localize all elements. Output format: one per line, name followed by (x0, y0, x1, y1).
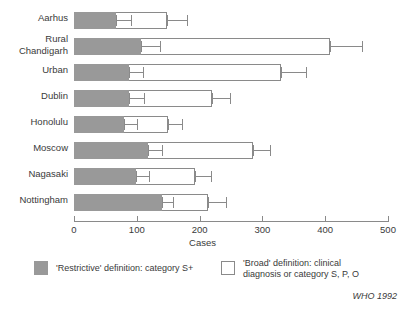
x-axis-tick-label: 400 (317, 224, 333, 235)
x-axis-tick (74, 216, 75, 222)
error-bar-restrictive (162, 202, 173, 203)
error-bar-restrictive (129, 72, 143, 73)
error-bar-cap-lower-restrictive (129, 93, 130, 104)
error-bar-cap-upper-broad (211, 171, 212, 182)
error-bar-broad (212, 98, 230, 99)
error-bar-cap-upper-broad (306, 67, 307, 78)
error-bar-restrictive (116, 20, 130, 21)
x-axis-tick (388, 216, 389, 222)
bar-segment-restrictive (74, 116, 124, 133)
error-bar-broad (208, 202, 226, 203)
legend: 'Restrictive' definition: category S+ 'B… (0, 258, 405, 292)
bar-row (0, 190, 405, 216)
x-axis-line (74, 221, 388, 222)
error-bar-restrictive (136, 176, 150, 177)
legend-label-line: diagnosis or category S, P, O (243, 269, 403, 280)
bar-row (0, 112, 405, 138)
error-bar-broad (330, 46, 361, 47)
bar-row (0, 60, 405, 86)
source-attribution: WHO 1992 (352, 291, 397, 301)
legend-swatch-broad (221, 261, 235, 275)
error-bar-cap-lower-restrictive (141, 41, 142, 52)
error-bar-cap-upper-broad (270, 145, 271, 156)
x-axis-tick-label: 500 (380, 224, 396, 235)
x-axis-title: Cases (0, 237, 405, 248)
error-bar-broad (167, 20, 187, 21)
x-axis-tick (200, 216, 201, 222)
x-axis-tick (262, 216, 263, 222)
legend-label-line: 'Restrictive' definition: category S+ (56, 263, 236, 274)
bar-row (0, 8, 405, 34)
bar-row (0, 34, 405, 60)
bar-stack (74, 194, 208, 211)
error-bar-restrictive (124, 124, 137, 125)
error-bar-cap-upper-restrictive (162, 145, 163, 156)
bar-segment-restrictive (74, 168, 136, 185)
bar-stack (74, 168, 195, 185)
error-bar-cap-upper-restrictive (149, 171, 150, 182)
bar-segment-restrictive (74, 142, 148, 159)
bar-stack (74, 116, 168, 133)
error-bar-cap-lower-broad (253, 145, 254, 156)
bar-stack (74, 64, 281, 81)
error-bar-restrictive (141, 46, 160, 47)
bar-stack (74, 38, 330, 55)
error-bar-cap-lower-broad (330, 41, 331, 52)
bar-segment-restrictive (74, 90, 129, 107)
error-bar-cap-lower-restrictive (124, 119, 125, 130)
bar-segment-restrictive (74, 38, 141, 55)
error-bar-cap-upper-restrictive (143, 67, 144, 78)
x-axis-tick (325, 216, 326, 222)
legend-swatch-restrictive (34, 261, 48, 275)
x-axis-tick-label: 100 (129, 224, 145, 235)
error-bar-cap-lower-broad (208, 197, 209, 208)
error-bar-cap-lower-broad (167, 15, 168, 26)
error-bar-cap-upper-broad (182, 119, 183, 130)
x-axis-tick (137, 216, 138, 222)
error-bar-restrictive (148, 150, 162, 151)
bar-segment-restrictive (74, 12, 116, 29)
bar-row (0, 138, 405, 164)
error-bar-broad (195, 176, 211, 177)
error-bar-cap-lower-restrictive (162, 197, 163, 208)
bar-segment-restrictive (74, 194, 162, 211)
error-bar-cap-upper-restrictive (131, 15, 132, 26)
error-bar-cap-lower-broad (195, 171, 196, 182)
legend-label-line: 'Broad' definition: clinical (243, 258, 403, 269)
error-bar-cap-lower-broad (168, 119, 169, 130)
x-axis-tick-label: 300 (254, 224, 270, 235)
legend-label-restrictive: 'Restrictive' definition: category S+ (56, 263, 236, 274)
error-bar-broad (281, 72, 306, 73)
error-bar-cap-lower-broad (281, 67, 282, 78)
bar-stack (74, 142, 253, 159)
bar-row (0, 164, 405, 190)
error-bar-cap-lower-restrictive (129, 67, 130, 78)
x-axis-tick-label: 200 (192, 224, 208, 235)
error-bar-cap-lower-restrictive (148, 145, 149, 156)
error-bar-cap-upper-restrictive (137, 119, 138, 130)
plot-area: Aarhus Rural Chandigarh Urban Dublin Hon… (0, 0, 405, 218)
error-bar-cap-upper-broad (362, 41, 363, 52)
error-bar-cap-upper-broad (230, 93, 231, 104)
error-bar-cap-lower-restrictive (136, 171, 137, 182)
error-bar-cap-lower-broad (212, 93, 213, 104)
bar-row (0, 86, 405, 112)
error-bar-cap-upper-restrictive (160, 41, 161, 52)
error-bar-cap-lower-restrictive (116, 15, 117, 26)
error-bar-broad (168, 124, 182, 125)
error-bar-broad (253, 150, 270, 151)
error-bar-cap-upper-broad (187, 15, 188, 26)
who-cases-bar-chart: Aarhus Rural Chandigarh Urban Dublin Hon… (0, 0, 405, 309)
error-bar-cap-upper-restrictive (173, 197, 174, 208)
error-bar-restrictive (129, 98, 144, 99)
x-axis-tick-label: 0 (71, 224, 76, 235)
legend-label-broad: 'Broad' definition: clinical diagnosis o… (243, 258, 403, 280)
error-bar-cap-upper-restrictive (144, 93, 145, 104)
bar-segment-restrictive (74, 64, 129, 81)
error-bar-cap-upper-broad (226, 197, 227, 208)
